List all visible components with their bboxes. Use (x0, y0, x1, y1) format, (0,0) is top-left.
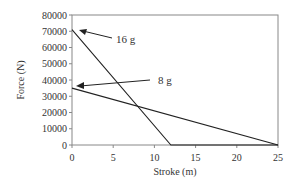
svg-text:50000: 50000 (42, 58, 67, 69)
series-line-16g (72, 30, 278, 145)
y-axis-label: Force (N) (15, 60, 27, 99)
svg-text:60000: 60000 (42, 42, 67, 53)
plot-frame (72, 15, 278, 145)
svg-text:10000: 10000 (42, 123, 67, 134)
annotation-8g-label: 8 g (158, 74, 172, 86)
svg-text:70000: 70000 (42, 26, 67, 37)
annotation-16g: 16 g (79, 29, 136, 45)
force-stroke-chart: 0100002000030000400005000060000700008000… (0, 0, 294, 190)
series-line-8g (72, 88, 278, 145)
svg-text:5: 5 (111, 152, 116, 163)
annotation-16g-label: 16 g (116, 33, 136, 45)
svg-text:40000: 40000 (42, 75, 67, 86)
svg-text:15: 15 (191, 152, 201, 163)
series-lines (72, 30, 278, 145)
svg-text:20: 20 (232, 152, 242, 163)
x-axis-ticks: 0510152025 (70, 145, 284, 163)
svg-text:25: 25 (273, 152, 283, 163)
svg-text:0: 0 (70, 152, 75, 163)
svg-text:20000: 20000 (42, 107, 67, 118)
svg-text:30000: 30000 (42, 91, 67, 102)
svg-text:80000: 80000 (42, 10, 67, 21)
x-axis-label: Stroke (m) (153, 166, 196, 178)
svg-text:10: 10 (149, 152, 159, 163)
annotation-8g: 8 g (76, 74, 172, 89)
y-axis-ticks: 0100002000030000400005000060000700008000… (42, 10, 72, 151)
svg-text:0: 0 (62, 140, 67, 151)
